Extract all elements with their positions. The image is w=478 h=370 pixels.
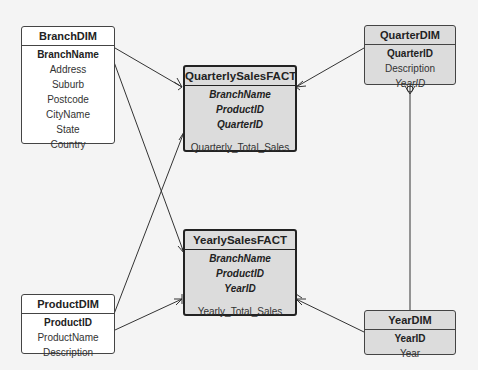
rel-product-yearly <box>115 299 182 330</box>
attribute-quarterid: QuarterID <box>365 46 455 61</box>
entity-quarterly-sales-fact[interactable]: QuarterlySalesFACT BranchName ProductID … <box>183 65 297 152</box>
attribute-branchname: BranchName <box>22 47 114 62</box>
attribute-country: Country <box>22 137 114 152</box>
attribute-state: State <box>22 122 114 137</box>
entity-title: BranchDIM <box>22 27 114 46</box>
attribute-branchname: BranchName <box>185 87 295 102</box>
attribute-productname: ProductName <box>22 330 114 345</box>
attribute-yearid: YearID <box>185 281 295 296</box>
attribute-quarterid: QuarterID <box>185 117 295 132</box>
attribute-productid: ProductID <box>22 315 114 330</box>
entity-title: ProductDIM <box>22 295 114 314</box>
entity-title: YearDIM <box>365 311 455 330</box>
rel-branch-quarterly <box>115 48 182 87</box>
crowsfoot-icon <box>174 78 182 90</box>
attribute-cityname: CityName <box>22 107 114 122</box>
attribute-productid: ProductID <box>185 266 295 281</box>
attribute-suburb: Suburb <box>22 77 114 92</box>
attribute-quarterly-total-sales: Quarterly_Total_Sales <box>185 140 295 155</box>
entity-title: YearlySalesFACT <box>185 231 295 250</box>
attribute-yearid: YearID <box>365 76 455 91</box>
attribute-description: Description <box>22 345 114 360</box>
rel-quarter-quarterly <box>296 48 364 87</box>
entity-title: QuarterDIM <box>365 26 455 45</box>
attribute-productid: ProductID <box>185 102 295 117</box>
entity-year-dim[interactable]: YearDIM YearID Year <box>364 310 456 355</box>
entity-branch-dim[interactable]: BranchDIM BranchName Address Suburb Post… <box>21 26 115 144</box>
entity-product-dim[interactable]: ProductDIM ProductID ProductName Descrip… <box>21 294 115 354</box>
entity-quarter-dim[interactable]: QuarterDIM QuarterID Description YearID <box>364 25 456 85</box>
attribute-description: Description <box>365 61 455 76</box>
attribute-yearly-total-sales: Yearly_Total_Sales <box>185 304 295 319</box>
attribute-address: Address <box>22 62 114 77</box>
attribute-postcode: Postcode <box>22 92 114 107</box>
rel-year-yearly <box>296 299 364 332</box>
attribute-branchname: BranchName <box>185 251 295 266</box>
entity-yearly-sales-fact[interactable]: YearlySalesFACT BranchName ProductID Yea… <box>183 229 297 316</box>
entity-title: QuarterlySalesFACT <box>185 67 295 86</box>
crowsfoot-icon <box>174 294 182 305</box>
attribute-year: Year <box>365 346 455 361</box>
attribute-yearid: YearID <box>365 331 455 346</box>
